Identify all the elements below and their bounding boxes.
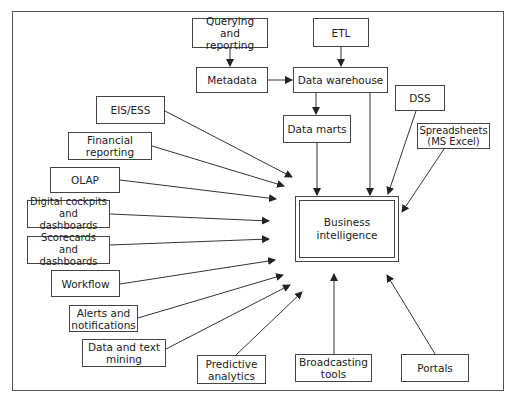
node-predictive-analytics: Predictive analytics: [197, 355, 266, 384]
node-alerts: Alerts and notifications: [69, 305, 138, 332]
node-portals: Portals: [401, 354, 469, 382]
node-workflow: Workflow: [51, 270, 120, 297]
node-data-marts: Data marts: [283, 115, 351, 143]
node-broadcasting-tools: Broadcasting tools: [295, 354, 372, 382]
node-scorecards: Scorecards and dashboards: [27, 236, 110, 264]
node-querying-reporting: Querying and reporting: [192, 18, 268, 48]
node-dss: DSS: [395, 85, 445, 111]
node-data-warehouse: Data warehouse: [293, 67, 388, 93]
node-spreadsheets: Spreadsheets (MS Excel): [417, 123, 490, 149]
node-etl: ETL: [313, 18, 369, 47]
node-digital-cockpits: Digital cockpits and dashboards: [27, 200, 110, 228]
node-olap: OLAP: [50, 167, 120, 193]
business-intelligence-label: Business intelligence: [299, 200, 395, 258]
node-eis-ess: EIS/ESS: [96, 96, 165, 124]
node-data-text-mining: Data and text mining: [82, 339, 166, 367]
node-business-intelligence: Business intelligence: [295, 196, 399, 262]
node-financial-reporting: Financial reporting: [68, 132, 152, 160]
node-metadata: Metadata: [196, 67, 268, 93]
